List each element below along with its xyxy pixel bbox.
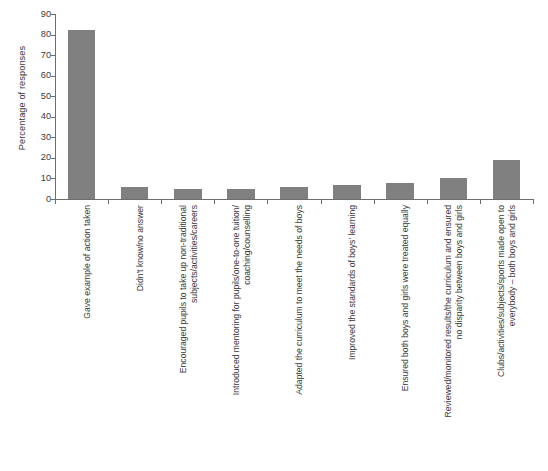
bar [174,189,202,199]
x-axis-label-line: Didn't know/no answer [135,205,145,291]
x-axis-tick-mark [533,199,534,204]
bar [68,30,96,199]
x-axis-label-line: Adapted the curriculum to meet the needs… [294,205,304,395]
bar [493,160,521,199]
x-axis-label: Adapted the curriculum to meet the needs… [294,205,305,455]
y-axis-tick-label: 70 [41,51,51,60]
plot-area: 0102030405060708090 [55,14,533,199]
y-axis-title: Percentage of responses [14,0,30,198]
bar [280,187,308,199]
x-axis-label-line: subjects/activities/careers [188,205,199,455]
x-axis-label: Gave example of action taken [82,205,93,455]
x-axis-label: Introduced mentoring for pupils/one-to-o… [230,205,251,455]
x-axis-label-line: Encouraged pupils to take up non-traditi… [177,205,187,373]
x-axis-label-line: Gave example of action taken [82,205,92,319]
bar-chart: Percentage of responses 0102030405060708… [0,0,548,471]
y-axis-tick-label: 0 [46,195,51,204]
bar [386,183,414,199]
y-axis-tick-label: 20 [41,154,51,163]
y-axis-tick-label: 10 [41,174,51,183]
x-axis-label: Didn't know/no answer [135,205,146,455]
x-axis-label: Improved the standards of boys' learning [347,205,358,455]
y-axis-tick-label: 80 [41,30,51,39]
bar [440,178,468,199]
x-axis-label: Ensured both boys and girls were treated… [400,205,411,455]
y-axis-tick-label: 50 [41,92,51,101]
x-axis-label: Clubs/activities/subjects/sports made op… [496,205,517,455]
y-axis-tick-label: 40 [41,113,51,122]
x-axis-label-line: Reviewed/monitored results/the curriculu… [443,205,453,418]
y-axis-tick-label: 90 [41,10,51,19]
x-axis-label-line: coaching/counselling [241,205,252,455]
x-axis-label-line: Clubs/activities/subjects/sports made op… [496,205,506,377]
x-axis-label-line: Introduced mentoring for pupils/one-to-o… [230,205,240,395]
x-axis-label: Encouraged pupils to take up non-traditi… [177,205,198,455]
bars-layer [55,14,533,199]
bar [333,185,361,199]
bar [227,189,255,199]
x-axis-label-line: no disparity between boys and girls [453,205,464,455]
x-axis-labels: Gave example of action takenDidn't know/… [55,199,533,459]
bar [121,187,149,199]
y-axis-tick-label: 60 [41,72,51,81]
x-axis-label-line: everybody – both boys and girls [506,205,517,455]
x-axis-label-line: Ensured both boys and girls were treated… [400,205,410,391]
x-axis-label: Reviewed/monitored results/the curriculu… [443,205,464,455]
x-axis-label-line: Improved the standards of boys' learning [347,205,357,360]
y-axis-tick-label: 30 [41,133,51,142]
